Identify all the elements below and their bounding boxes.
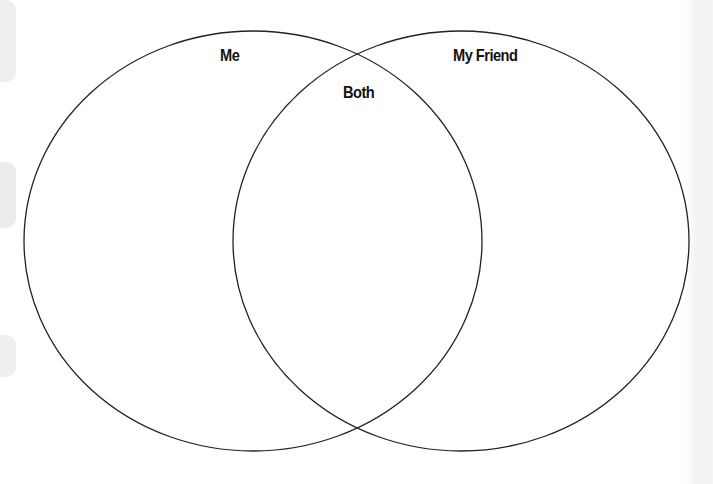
venn-diagram [0,0,713,484]
label-both: Both [343,84,374,101]
label-my-friend: My Friend [453,47,517,64]
circle-my-friend [233,31,689,451]
label-me: Me [220,47,239,64]
circle-me [24,31,482,451]
